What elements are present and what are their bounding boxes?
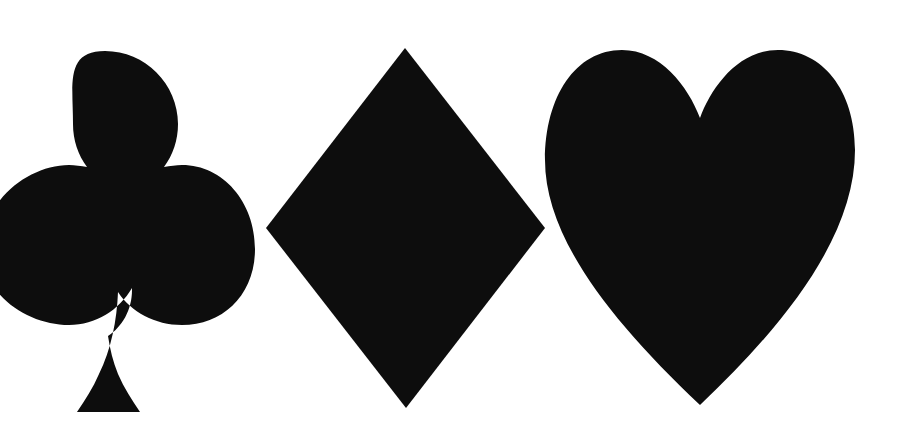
card-suits-illustration: [0, 0, 905, 436]
image-canvas: [0, 0, 905, 436]
